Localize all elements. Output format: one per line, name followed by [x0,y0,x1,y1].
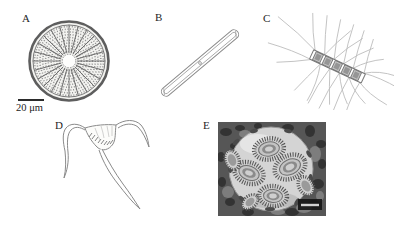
scale-bar-label: 20 μm [16,102,43,113]
apical-horn [99,149,140,209]
sem-scale-bar [298,199,322,210]
horned-dinoflagellate-drawing [52,118,164,220]
phytoplankton-figure: A [0,0,395,234]
scale-bar-line [18,99,44,101]
centric-diatom-drawing [26,17,112,105]
pennate-diatom-drawing [150,22,250,104]
panel-label-e: E [203,120,210,131]
cell-body [85,125,116,150]
left-horn [63,124,85,178]
right-horn [116,121,149,148]
coccolith-plate [258,185,288,207]
chain-forming-diatom-drawing [256,6,394,110]
coccolithophore-sem-micrograph [218,122,326,216]
